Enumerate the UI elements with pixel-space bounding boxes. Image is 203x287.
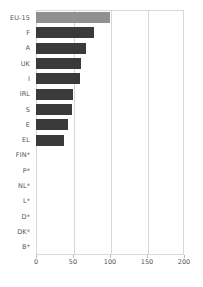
bar xyxy=(36,12,110,23)
bar-row xyxy=(36,133,184,148)
y-axis-tick-label: IRL xyxy=(0,87,33,102)
x-axis-tick-label: 0 xyxy=(34,258,38,266)
y-axis-tick-label: L* xyxy=(0,194,33,209)
bar-row xyxy=(36,56,184,71)
x-axis-tick-label: 200 xyxy=(178,258,190,266)
y-axis-tick-label: NL* xyxy=(0,178,33,193)
y-axis-tick-label: F xyxy=(0,25,33,40)
x-axis-tick-label: 150 xyxy=(141,258,153,266)
y-axis-tick-label: E xyxy=(0,117,33,132)
bar-row xyxy=(36,10,184,25)
bar-row xyxy=(36,41,184,56)
y-axis-tick-label: I xyxy=(0,71,33,86)
bar xyxy=(36,89,73,100)
bar xyxy=(36,104,72,115)
y-axis-tick-label: EL xyxy=(0,133,33,148)
bar xyxy=(36,27,94,38)
y-axis-tick-label: P* xyxy=(0,163,33,178)
y-axis-tick-label: S xyxy=(0,102,33,117)
y-axis-tick-label: B* xyxy=(0,240,33,255)
bar-row xyxy=(36,148,184,163)
bar-row xyxy=(36,224,184,239)
y-axis-tick-labels: EU-15FAUKIIRLSEELFIN*P*NL*L*D*DK*B* xyxy=(0,10,33,255)
x-axis-tick-label: 100 xyxy=(104,258,116,266)
bar-row xyxy=(36,25,184,40)
bar-row xyxy=(36,117,184,132)
bar-row xyxy=(36,163,184,178)
bar xyxy=(36,58,81,69)
y-axis-tick-label: EU-15 xyxy=(0,10,33,25)
bar xyxy=(36,73,80,84)
y-axis-tick-label: D* xyxy=(0,209,33,224)
bar-row xyxy=(36,209,184,224)
y-axis-tick-label: A xyxy=(0,41,33,56)
bar-row xyxy=(36,87,184,102)
bar-row xyxy=(36,240,184,255)
bar-row xyxy=(36,71,184,86)
bar-row xyxy=(36,194,184,209)
bar xyxy=(36,135,64,146)
x-axis-tick-label: 50 xyxy=(69,258,77,266)
y-axis-tick-label: DK* xyxy=(0,224,33,239)
bar xyxy=(36,119,68,130)
bar-row xyxy=(36,102,184,117)
bar-series xyxy=(36,10,184,255)
y-axis-tick-label: FIN* xyxy=(0,148,33,163)
y-axis-tick-label: UK xyxy=(0,56,33,71)
bar xyxy=(36,43,86,54)
bar-row xyxy=(36,178,184,193)
bar-chart: EU-15FAUKIIRLSEELFIN*P*NL*L*D*DK*B* 0501… xyxy=(0,0,203,287)
